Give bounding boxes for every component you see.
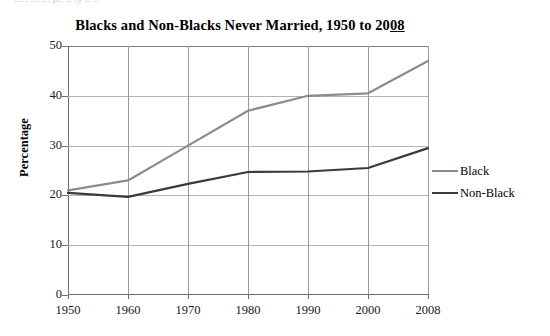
x-tick-label: 1950 xyxy=(43,303,93,318)
x-tick-mark xyxy=(428,294,429,299)
legend-item-non-black: Non-Black xyxy=(432,182,544,204)
y-axis-tick-labels: 01020304050 xyxy=(28,46,62,295)
y-tick-label: 50 xyxy=(32,38,62,53)
legend-label: Black xyxy=(460,164,489,179)
plot-area xyxy=(68,46,428,295)
x-tick-label: 1960 xyxy=(103,303,153,318)
chart-title: Blacks and Non-Blacks Never Married, 195… xyxy=(0,17,480,34)
chart-title-underlined-suffix: 08 xyxy=(390,17,405,33)
x-tick-label: 1990 xyxy=(283,303,333,318)
y-tick-label: 0 xyxy=(32,287,62,302)
x-tick-label: 2000 xyxy=(343,303,393,318)
series-line-non-black xyxy=(68,148,428,197)
y-tick-label: 20 xyxy=(32,187,62,202)
series-layer xyxy=(68,46,428,295)
legend-label: Non-Black xyxy=(460,186,515,201)
x-axis-tick-labels: 1950196019701980199020002008 xyxy=(68,303,428,323)
legend-swatch-line-icon xyxy=(432,192,458,194)
clipped-top-text-strip: ..... ... ... p.. .. .y .. .. xyxy=(0,0,550,10)
vertical-gridline xyxy=(428,46,429,295)
x-tick-label: 1980 xyxy=(223,303,273,318)
chart-title-prefix: Blacks and Non-Blacks Never Married, 195… xyxy=(75,17,390,33)
y-tick-label: 40 xyxy=(32,88,62,103)
legend-item-black: Black xyxy=(432,160,544,182)
legend-swatch-line-icon xyxy=(432,170,458,172)
chart-legend: BlackNon-Black xyxy=(432,160,544,204)
clipped-top-text: ..... ... ... p.. .. .y .. .. xyxy=(14,0,99,4)
x-tick-label: 1970 xyxy=(163,303,213,318)
y-tick-label: 30 xyxy=(32,138,62,153)
x-tick-label: 2008 xyxy=(403,303,453,318)
y-tick-label: 10 xyxy=(32,237,62,252)
